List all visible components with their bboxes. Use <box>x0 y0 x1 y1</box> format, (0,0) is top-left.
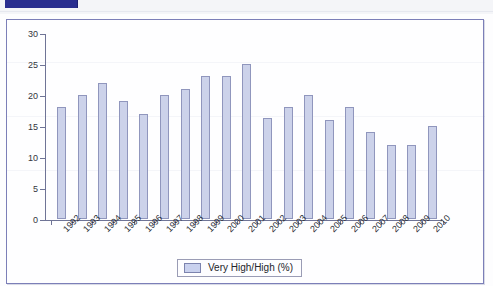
selection-highlight-bar[interactable] <box>5 0 78 8</box>
bar[interactable] <box>345 107 354 219</box>
y-axis-tick: 30 <box>9 29 45 39</box>
y-axis-tick-mark <box>40 96 45 97</box>
y-axis-tick-label: 5 <box>33 184 38 194</box>
bar[interactable] <box>428 126 437 219</box>
y-axis-tick: 10 <box>9 153 45 163</box>
bar[interactable] <box>263 118 272 219</box>
top-divider <box>0 11 493 12</box>
bar[interactable] <box>325 120 334 219</box>
y-axis-tick-label: 15 <box>28 122 38 132</box>
chart-legend: Very High/High (%) <box>177 259 302 277</box>
y-axis-tick-label: 0 <box>33 215 38 225</box>
y-axis-tick-label: 30 <box>28 29 38 39</box>
bar[interactable] <box>98 83 107 219</box>
y-axis-tick: 20 <box>9 91 45 101</box>
chart-container: 302520151050 199219931994199519961997199… <box>6 19 484 284</box>
y-axis-line <box>45 34 46 221</box>
bar[interactable] <box>139 114 148 219</box>
y-axis-tick: 25 <box>9 60 45 70</box>
bar[interactable] <box>222 76 231 219</box>
y-axis-tick-mark <box>40 158 45 159</box>
y-axis-tick-mark <box>40 65 45 66</box>
bar[interactable] <box>407 145 416 219</box>
bar[interactable] <box>181 89 190 219</box>
legend-swatch-icon <box>184 263 201 273</box>
bar[interactable] <box>160 95 169 219</box>
y-axis-tick-label: 10 <box>28 153 38 163</box>
bar[interactable] <box>78 95 87 219</box>
y-axis-tick-mark <box>40 189 45 190</box>
y-axis-tick: 0 <box>9 215 45 225</box>
y-axis-tick-mark <box>40 127 45 128</box>
y-axis-tick: 5 <box>9 184 45 194</box>
bar[interactable] <box>242 64 251 219</box>
y-axis-tick: 15 <box>9 122 45 132</box>
y-axis-tick-mark <box>40 34 45 35</box>
y-axis-tick-label: 25 <box>28 60 38 70</box>
bar[interactable] <box>119 101 128 219</box>
bar[interactable] <box>57 107 66 219</box>
top-strip <box>0 0 493 14</box>
bar[interactable] <box>201 76 210 219</box>
bar[interactable] <box>366 132 375 219</box>
plot-area: 302520151050 199219931994199519961997199… <box>45 34 441 220</box>
legend-label: Very High/High (%) <box>208 262 293 273</box>
x-axis-tick-mark <box>51 221 52 225</box>
bar[interactable] <box>284 107 293 219</box>
y-axis-tick-mark <box>40 220 45 221</box>
bar[interactable] <box>304 95 313 219</box>
y-axis-tick-label: 20 <box>28 91 38 101</box>
bar[interactable] <box>387 145 396 219</box>
